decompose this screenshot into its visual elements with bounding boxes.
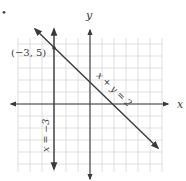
intersection-point: [52, 46, 56, 50]
x-axis-label: x: [177, 98, 184, 111]
line-label-x-eq-neg3: x = −3: [40, 119, 51, 152]
y-axis-label: y: [85, 9, 93, 22]
item-bullet: •: [1, 7, 7, 18]
point-label: (−3, 5): [11, 47, 46, 58]
line-label-x-plus-y: x + y = 2: [95, 70, 135, 109]
coordinate-graph: • x y (−3, 5) x + y = 2: [0, 0, 186, 181]
